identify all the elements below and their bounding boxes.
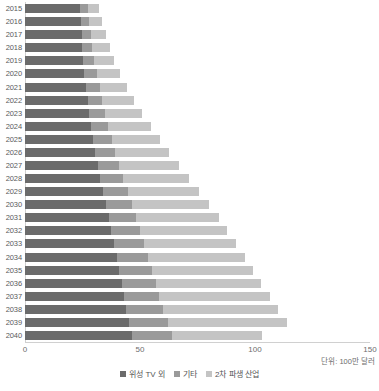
bar-row bbox=[25, 2, 370, 15]
stacked-bar-chart: 2015201620172018201920202021202220232024… bbox=[0, 0, 379, 391]
legend-swatch-icon bbox=[206, 371, 212, 377]
bar-row bbox=[25, 94, 370, 107]
bar-segment bbox=[126, 305, 163, 314]
bar-segment bbox=[132, 331, 172, 340]
unit-note: 단위: 100만 달러 bbox=[321, 355, 375, 366]
y-tick-label: 2036 bbox=[0, 277, 22, 290]
y-tick-label: 2034 bbox=[0, 250, 22, 263]
y-tick-label: 2038 bbox=[0, 303, 22, 316]
bar-segment bbox=[108, 122, 151, 131]
x-tick-label: 150 bbox=[363, 345, 376, 354]
x-tick-label: 50 bbox=[136, 345, 145, 354]
bar-segment bbox=[25, 109, 89, 118]
bar-segment bbox=[82, 43, 92, 52]
bar-row bbox=[25, 329, 370, 342]
legend-item[interactable]: 기타 bbox=[174, 368, 197, 379]
y-tick-label: 2026 bbox=[0, 146, 22, 159]
bar-row bbox=[25, 80, 370, 93]
y-tick-label: 2040 bbox=[0, 329, 22, 342]
bar-row bbox=[25, 133, 370, 146]
bar-segment bbox=[119, 266, 152, 275]
bar-segment bbox=[25, 17, 81, 26]
bar-segment bbox=[122, 279, 156, 288]
bar-row bbox=[25, 250, 370, 263]
legend-swatch-icon bbox=[174, 371, 180, 377]
bar-segment bbox=[25, 331, 132, 340]
bar-segment bbox=[88, 4, 98, 13]
bar-row bbox=[25, 107, 370, 120]
bar-segment bbox=[114, 239, 144, 248]
bar-segment bbox=[148, 253, 245, 262]
bar-segment bbox=[25, 148, 95, 157]
bar-row bbox=[25, 15, 370, 28]
y-tick-label: 2035 bbox=[0, 264, 22, 277]
bar-segment bbox=[163, 305, 278, 314]
y-tick-label: 2015 bbox=[0, 2, 22, 15]
bar-segment bbox=[25, 174, 100, 183]
y-tick-label: 2023 bbox=[0, 107, 22, 120]
legend-label: 기타 bbox=[183, 368, 197, 379]
bar-row bbox=[25, 316, 370, 329]
bar-segment bbox=[25, 122, 91, 131]
bar-segment bbox=[159, 292, 269, 301]
bar-segment bbox=[25, 135, 93, 144]
y-tick-label: 2024 bbox=[0, 120, 22, 133]
bar-segment bbox=[91, 30, 106, 39]
bar-segment bbox=[25, 226, 111, 235]
bar-segment bbox=[89, 109, 105, 118]
legend-item[interactable]: 위성 TV 외 bbox=[120, 368, 165, 379]
bar-segment bbox=[100, 174, 123, 183]
bar-segment bbox=[86, 83, 100, 92]
bar-row bbox=[25, 198, 370, 211]
bar-segment bbox=[111, 226, 140, 235]
y-tick-label: 2018 bbox=[0, 41, 22, 54]
y-tick-label: 2033 bbox=[0, 237, 22, 250]
chart-legend: 위성 TV 외기타2차 파생 산업 bbox=[0, 368, 379, 379]
bar-row bbox=[25, 28, 370, 41]
y-tick-label: 2037 bbox=[0, 290, 22, 303]
bar-segment bbox=[136, 213, 219, 222]
bar-segment bbox=[123, 174, 189, 183]
bar-segment bbox=[112, 135, 160, 144]
bar-row bbox=[25, 211, 370, 224]
bar-segment bbox=[89, 17, 102, 26]
bar-segment bbox=[25, 30, 82, 39]
bar-segment bbox=[103, 187, 127, 196]
y-tick-label: 2019 bbox=[0, 54, 22, 67]
bar-segment bbox=[98, 161, 120, 170]
bar-segment bbox=[129, 318, 168, 327]
bar-segment bbox=[109, 213, 136, 222]
bar-segment bbox=[25, 4, 80, 13]
bar-segment bbox=[115, 148, 169, 157]
bar-segment bbox=[152, 266, 253, 275]
bar-segment bbox=[117, 253, 148, 262]
bar-segment bbox=[25, 279, 122, 288]
bar-segment bbox=[83, 56, 94, 65]
bar-segment bbox=[144, 239, 236, 248]
legend-item[interactable]: 2차 파생 산업 bbox=[206, 368, 259, 379]
x-tick-label: 100 bbox=[248, 345, 261, 354]
bar-row bbox=[25, 264, 370, 277]
bar-segment bbox=[84, 69, 96, 78]
y-axis-tick-labels: 2015201620172018201920202021202220232024… bbox=[0, 2, 22, 342]
bar-segment bbox=[25, 318, 129, 327]
bar-segment bbox=[124, 292, 159, 301]
bar-segment bbox=[25, 187, 103, 196]
x-axis-line bbox=[25, 342, 370, 343]
y-tick-label: 2029 bbox=[0, 185, 22, 198]
bar-segment bbox=[25, 239, 114, 248]
legend-swatch-icon bbox=[120, 371, 126, 377]
y-tick-label: 2020 bbox=[0, 67, 22, 80]
bar-segment bbox=[88, 96, 103, 105]
bar-segment bbox=[97, 69, 120, 78]
bar-segment bbox=[25, 266, 119, 275]
y-tick-label: 2017 bbox=[0, 28, 22, 41]
bar-row bbox=[25, 54, 370, 67]
legend-label: 위성 TV 외 bbox=[129, 368, 165, 379]
bar-row bbox=[25, 67, 370, 80]
bar-segment bbox=[92, 43, 109, 52]
bar-segment bbox=[25, 56, 83, 65]
bar-row bbox=[25, 159, 370, 172]
bar-segment bbox=[82, 30, 91, 39]
y-tick-label: 2021 bbox=[0, 80, 22, 93]
